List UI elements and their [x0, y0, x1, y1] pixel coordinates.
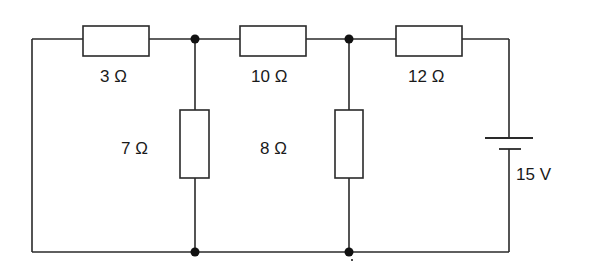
resistor-8-ohm	[335, 110, 363, 178]
resistor-7-ohm	[180, 110, 209, 178]
junction-node-top-left	[191, 35, 200, 44]
junction-node-top-right	[345, 35, 354, 44]
resistor-3-ohm	[83, 26, 149, 56]
label-3-ohm: 3 Ω	[100, 67, 127, 87]
label-10-ohm: 10 Ω	[251, 67, 287, 87]
resistor-12-ohm	[396, 26, 462, 56]
stray-dot	[351, 259, 353, 261]
circuit-schematic	[0, 0, 590, 269]
label-8-ohm: 8 Ω	[260, 139, 287, 159]
junction-node-bottom-right	[345, 248, 354, 257]
label-7-ohm: 7 Ω	[121, 139, 148, 159]
label-12-ohm: 12 Ω	[408, 67, 444, 87]
circuit-diagram: 3 Ω 10 Ω 12 Ω 7 Ω 8 Ω 15 V	[0, 0, 590, 269]
battery-icon	[485, 138, 533, 149]
junction-node-bottom-left	[191, 248, 200, 257]
label-15-volt: 15 V	[516, 165, 551, 185]
resistor-10-ohm	[240, 26, 306, 56]
